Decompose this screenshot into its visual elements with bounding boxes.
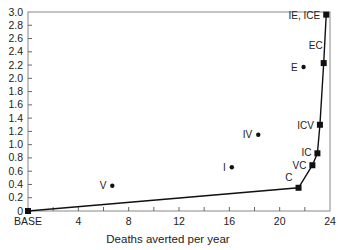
- point-label: VC: [292, 160, 306, 171]
- square-marker: [321, 60, 327, 66]
- y-tick-label: 2.6: [8, 32, 23, 44]
- circle-marker: [110, 184, 114, 188]
- point-label: E: [291, 62, 298, 73]
- square-marker: [317, 122, 323, 128]
- y-tick-label: 0.4: [8, 178, 23, 190]
- circle-marker: [301, 65, 305, 69]
- point-label: I: [223, 162, 226, 173]
- point-label: IC: [301, 147, 311, 158]
- point-label: ICV: [297, 120, 314, 131]
- square-marker: [323, 12, 329, 18]
- x-tick-label: 8: [126, 215, 132, 227]
- frontier-series: CVCICICVECIE, ICE: [25, 10, 329, 214]
- x-axis: BASE4812162024: [14, 207, 336, 227]
- y-tick-label: 2.2: [8, 59, 23, 71]
- y-tick-label: 1.8: [8, 85, 23, 97]
- y-tick-label: 2.4: [8, 45, 23, 57]
- x-tick-label: BASE: [14, 215, 42, 227]
- x-axis-title: Deaths averted per year: [106, 233, 230, 245]
- y-tick-label: 1.2: [8, 125, 23, 137]
- circle-marker: [256, 133, 260, 137]
- chart-svg: 00.20.40.60.81.01.21.41.61.82.02.22.42.6…: [0, 0, 338, 250]
- y-tick-label: 1.6: [8, 98, 23, 110]
- square-marker: [296, 185, 302, 191]
- y-tick-label: 2.8: [8, 19, 23, 31]
- y-tick-label: 2.0: [8, 72, 23, 84]
- y-tick-label: 1.4: [8, 112, 23, 124]
- y-tick-label: 1.0: [8, 138, 23, 150]
- y-tick-label: 3.0: [8, 6, 23, 18]
- square-marker: [309, 162, 315, 168]
- x-tick-label: 4: [75, 215, 81, 227]
- circle-marker: [230, 165, 234, 169]
- point-label: C: [285, 172, 292, 183]
- x-tick-label: 16: [223, 215, 235, 227]
- x-tick-label: 20: [274, 215, 286, 227]
- y-tick-label: 0.6: [8, 165, 23, 177]
- y-tick-label: 0.2: [8, 191, 23, 203]
- frontier-line: [28, 15, 326, 211]
- point-label: V: [100, 180, 107, 191]
- dominated-series: VIIVE: [100, 62, 306, 192]
- square-marker: [314, 150, 320, 156]
- square-marker: [25, 208, 31, 214]
- x-tick-label: 12: [173, 215, 185, 227]
- y-tick-label: 0.8: [8, 151, 23, 163]
- x-tick-label: 24: [324, 215, 336, 227]
- point-label: IE, ICE: [289, 10, 321, 21]
- point-label: EC: [309, 40, 323, 51]
- point-label: IV: [243, 129, 253, 140]
- cost-effectiveness-chart: 00.20.40.60.81.01.21.41.61.82.02.22.42.6…: [0, 0, 338, 250]
